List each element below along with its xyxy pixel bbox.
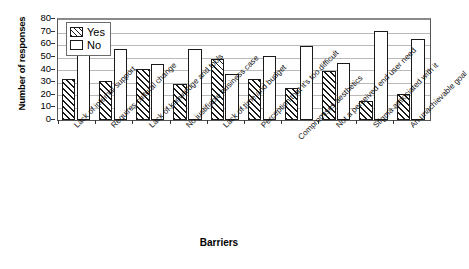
x-axis-title: Barriers <box>0 237 438 248</box>
y-tick-label: 20 <box>40 89 51 99</box>
y-tick-label: 70 <box>40 26 51 36</box>
y-tick-label: 40 <box>40 64 51 74</box>
y-axis-tick-labels: 01020304050607080 <box>27 13 55 125</box>
y-tick-mark <box>51 81 55 82</box>
y-tick-mark <box>51 94 55 95</box>
bar-yes[interactable] <box>62 79 75 120</box>
y-tick-label: 60 <box>40 38 51 48</box>
y-tick-label: 10 <box>40 101 51 111</box>
x-tick-mark <box>393 120 394 124</box>
legend-item-no: No <box>70 39 105 51</box>
y-tick-mark <box>51 119 55 120</box>
x-tick-mark <box>132 120 133 124</box>
y-tick-label: 80 <box>40 13 51 23</box>
y-tick-mark <box>51 106 55 107</box>
legend-label-yes: Yes <box>87 27 105 38</box>
x-tick-mark <box>281 120 282 124</box>
x-tick-mark <box>356 120 357 124</box>
x-tick-mark <box>58 120 59 124</box>
y-axis-title: Number of responses <box>16 4 27 124</box>
y-tick-label: 50 <box>40 51 51 61</box>
y-tick-label: 30 <box>40 76 51 86</box>
y-tick-mark <box>51 56 55 57</box>
y-tick-mark <box>51 31 55 32</box>
x-tick-mark <box>95 120 96 124</box>
x-tick-mark <box>170 120 171 124</box>
y-tick-mark <box>51 43 55 44</box>
y-tick-mark <box>51 69 55 70</box>
legend-item-yes: Yes <box>70 26 105 38</box>
y-tick-mark <box>51 18 55 19</box>
legend-swatch-no <box>70 40 83 50</box>
x-tick-mark <box>244 120 245 124</box>
legend-label-no: No <box>87 40 101 51</box>
legend-swatch-yes <box>70 27 83 37</box>
x-tick-mark <box>207 120 208 124</box>
legend: Yes No <box>66 22 111 56</box>
